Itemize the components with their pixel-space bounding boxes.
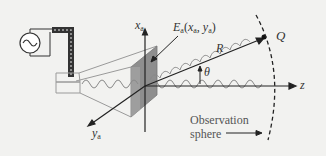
ac-source-icon: [20, 29, 55, 56]
z-axis-label: z: [300, 78, 305, 93]
aperture-field-label: Ea(xa, ya): [173, 20, 216, 35]
theta-label: θ: [204, 65, 210, 80]
wave-in-horn: [82, 80, 138, 88]
observation-arrow: [226, 131, 262, 136]
theta-arrow: [198, 66, 202, 84]
wave-along-z: [150, 80, 262, 88]
observation-label-line2: sphere: [190, 127, 221, 142]
range-label: R: [216, 41, 223, 56]
observation-label-line1: Observation: [190, 113, 249, 128]
x-axis-label: xa: [135, 18, 144, 33]
antenna-diagram: [0, 0, 326, 156]
coax-feed: [52, 30, 71, 77]
observation-sphere: [256, 15, 275, 140]
point-q-label: Q: [276, 28, 285, 44]
y-axis-label: ya: [92, 126, 101, 141]
